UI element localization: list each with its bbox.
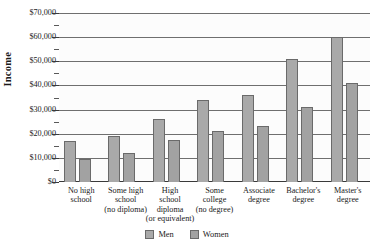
y-axis-tick-label: $50,000 (14, 57, 56, 65)
bar-men (108, 136, 120, 182)
x-axis-label-line: (no degree) (186, 205, 242, 214)
y-axis-tick-label: $0 (14, 178, 56, 186)
bar-men (64, 141, 76, 182)
bar-women (168, 140, 180, 182)
bar-men (331, 37, 343, 182)
bar-men (153, 119, 165, 182)
bar-group (148, 13, 192, 182)
y-axis-major-tick (52, 85, 59, 86)
legend-swatch-icon (145, 230, 154, 239)
chart-legend: MenWomen (0, 230, 374, 239)
y-axis-tick-label: $40,000 (14, 81, 56, 89)
bar-women (123, 153, 135, 182)
legend-item-women[interactable]: Women (190, 230, 229, 239)
bar-men (286, 59, 298, 182)
y-axis-tick-label: $70,000 (14, 9, 56, 17)
legend-swatch-icon (190, 230, 199, 239)
legend-label: Men (158, 230, 173, 239)
y-axis-tick-labels: $0$10,000$20,000$30,000$40,000$50,000$60… (14, 8, 56, 184)
bars-layer (59, 13, 370, 182)
bar-women (212, 131, 224, 182)
x-axis-tick-labels: No highschoolSome highschool(no diploma)… (59, 186, 370, 230)
y-axis-major-tick (52, 110, 59, 111)
y-axis-major-tick (52, 158, 59, 159)
bar-group (237, 13, 281, 182)
bar-group (281, 13, 325, 182)
y-axis-major-tick (52, 13, 59, 14)
x-axis-label-line: degree (320, 195, 374, 204)
legend-item-men[interactable]: Men (145, 230, 173, 239)
y-axis-tick-label: $10,000 (14, 154, 56, 162)
legend-label: Women (203, 230, 229, 239)
x-axis-tick-label: Master'sdegree (320, 186, 374, 205)
y-axis-tick-label: $30,000 (14, 106, 56, 114)
y-axis-tick-label: $20,000 (14, 130, 56, 138)
bar-group (326, 13, 370, 182)
bar-women (257, 126, 269, 182)
y-axis-tick-label: $60,000 (14, 33, 56, 41)
bar-women (346, 83, 358, 182)
y-axis-ticks (52, 13, 59, 183)
y-axis-major-tick (52, 182, 59, 183)
x-axis-label-line: (or equivalent) (142, 214, 198, 223)
y-axis-major-tick (52, 37, 59, 38)
x-axis-label-line: Master's (320, 186, 374, 195)
bar-men (242, 95, 254, 182)
plot-area (59, 13, 370, 182)
y-axis-major-tick (52, 134, 59, 135)
bar-men (197, 100, 209, 182)
y-axis-major-tick (52, 61, 59, 62)
bar-women (79, 159, 91, 182)
bar-group (103, 13, 147, 182)
bar-group (192, 13, 236, 182)
bar-women (301, 107, 313, 182)
income-by-education-bar-chart: Income $0$10,000$20,000$30,000$40,000$50… (0, 0, 374, 250)
bar-group (59, 13, 103, 182)
